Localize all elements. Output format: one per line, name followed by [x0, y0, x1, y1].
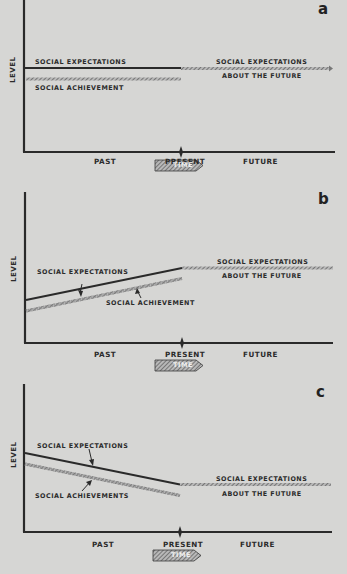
- x-label-future-b: FUTURE: [243, 350, 278, 359]
- time-badge-a: TIME: [155, 160, 203, 171]
- y-axis-label-b: LEVEL: [10, 256, 18, 282]
- achievement-label-c: SOCIAL ACHIEVEMENTS: [35, 492, 129, 500]
- future-expectations-line: [181, 67, 330, 70]
- x-label-present-b: PRESENT: [165, 350, 205, 359]
- panel-c-graphics: [23, 384, 332, 538]
- arrow-head-icon: [329, 66, 333, 72]
- achievement-label-b: SOCIAL ACHIEVEMENT: [106, 299, 195, 307]
- future-label-1-c: SOCIAL EXPECTATIONS: [216, 475, 307, 483]
- time-badge-b: TIME: [155, 360, 203, 371]
- panel-letter-a: a: [318, 0, 328, 18]
- x-label-present-c: PRESENT: [163, 540, 203, 549]
- time-badge-c: TIME: [153, 550, 201, 561]
- achievement-label-a: SOCIAL ACHIEVEMENT: [35, 84, 124, 92]
- x-label-future-a: FUTURE: [243, 157, 278, 166]
- expectations-label-c: SOCIAL EXPECTATIONS: [37, 442, 128, 450]
- future-label-2-a: ABOUT THE FUTURE: [222, 72, 302, 80]
- future-label-1-b: SOCIAL EXPECTATIONS: [217, 258, 308, 266]
- x-label-future-c: FUTURE: [240, 540, 275, 549]
- future-label-2-c: ABOUT THE FUTURE: [222, 490, 302, 498]
- future-label-1-a: SOCIAL EXPECTATIONS: [216, 58, 307, 66]
- x-label-past-c: PAST: [92, 540, 114, 549]
- panel-letter-b: b: [318, 190, 329, 208]
- panel-letter-c: c: [316, 383, 325, 401]
- achievement-line: [26, 78, 181, 81]
- future-label-2-b: ABOUT THE FUTURE: [222, 272, 302, 280]
- expectations-label-b: SOCIAL EXPECTATIONS: [37, 268, 128, 276]
- y-axis-label-c: LEVEL: [10, 442, 18, 468]
- expectations-label-a: SOCIAL EXPECTATIONS: [35, 58, 126, 66]
- x-label-past-b: PAST: [94, 350, 116, 359]
- y-axis-label-a: LEVEL: [9, 57, 17, 83]
- x-label-past-a: PAST: [94, 157, 116, 166]
